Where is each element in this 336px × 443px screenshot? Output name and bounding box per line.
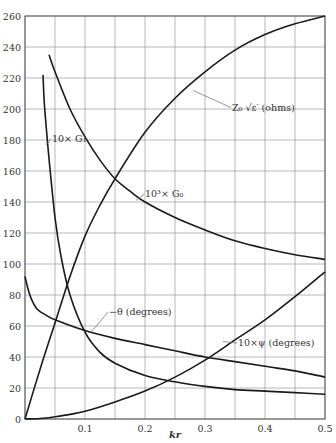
y-tick-label: 200: [3, 104, 21, 115]
y-tick-label: 220: [3, 73, 21, 84]
y-tick-label: 260: [3, 11, 21, 22]
y-tick-label: 240: [3, 42, 21, 53]
x-tick-label: 0.2: [137, 423, 152, 434]
y-tick-label: 80: [9, 290, 21, 301]
curve-label: 10³× G₀: [145, 188, 183, 199]
y-tick-label: 180: [3, 135, 21, 146]
curve-label: 10× G₁: [52, 133, 87, 144]
curve-label: −θ (degrees): [109, 306, 172, 317]
y-tick-label: 60: [9, 321, 21, 332]
y-tick-label: 0: [15, 414, 21, 425]
y-tick-label: 100: [3, 259, 21, 270]
y-tick-labels: 020406080100120140160180200220240260: [3, 11, 21, 425]
x-tick-label: 0.4: [257, 423, 272, 434]
y-tick-label: 160: [3, 166, 21, 177]
y-tick-label: 120: [3, 228, 21, 239]
label-leader-line: [193, 90, 231, 107]
y-tick-label: 40: [9, 352, 21, 363]
x-tick-label: 0.5: [317, 423, 332, 434]
y-tick-label: 140: [3, 197, 21, 208]
label-leader-line: [91, 312, 108, 332]
x-axis-label: kr: [169, 429, 182, 440]
x-tick-label: 0.1: [77, 423, 92, 434]
curve-series-1: [49, 55, 325, 260]
y-tick-label: 20: [9, 383, 21, 394]
curve-label: Z₀ √ε′ (ohms): [232, 102, 295, 113]
x-tick-label: 0.3: [197, 423, 212, 434]
curve-label: 10×ψ (degrees): [238, 337, 314, 348]
x-tick-labels: 0.10.20.30.40.5: [77, 423, 332, 434]
chart: 020406080100120140160180200220240260 0.1…: [0, 0, 336, 443]
